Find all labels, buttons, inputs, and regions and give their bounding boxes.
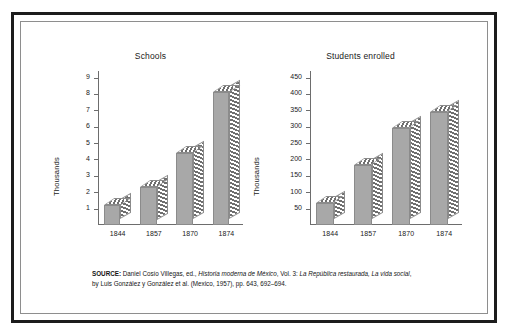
- chart-students-enrolled-bar-1857: [354, 165, 371, 225]
- chart-students-enrolled-plot-area: 5010015020025030035040045018441857187018…: [310, 71, 462, 225]
- chart-schools-y-tick-label: 2: [86, 188, 90, 195]
- chart-schools-y-axis-label: Thousands: [52, 157, 61, 196]
- chart-students-enrolled-y-tick: 200: [306, 159, 311, 160]
- chart-schools-bar-1874: [213, 92, 230, 225]
- chart-schools-x-tick-label: 1870: [176, 230, 204, 237]
- chart-students-enrolled-bar-group: 1870: [392, 128, 409, 225]
- chart-students-enrolled-y-tick: 250: [306, 143, 311, 144]
- chart-students-enrolled-y-tick: 450: [306, 78, 311, 79]
- bar-side-face: [120, 192, 131, 219]
- source-note: SOURCE: Daniel Cosío Villegas, ed., Hist…: [92, 269, 460, 289]
- chart-schools-y-tick-label: 7: [86, 106, 90, 113]
- chart-students-enrolled-y-tick: 350: [306, 110, 311, 111]
- chart-schools-bar-1870: [176, 153, 193, 225]
- chart-students-enrolled-bar-group: 1857: [354, 165, 371, 225]
- chart-students-enrolled-bar-1870: [392, 128, 409, 225]
- chart-schools-plot-area: 1234567891844185718701874: [98, 71, 243, 225]
- source-note-text-a: Daniel Cosío Villegas, ed.,: [121, 270, 198, 277]
- bar-front-face: [430, 112, 447, 225]
- chart-students-enrolled-y-tick-label: 300: [290, 122, 302, 129]
- chart-schools-x-tick-label: 1857: [140, 230, 168, 237]
- source-note-subtitle-italic: La República restaurada, La vida social: [299, 270, 409, 277]
- chart-students-enrolled-y-tick: 400: [306, 94, 311, 95]
- charts-row: Schools Thousands 1234567891844185718701…: [14, 51, 494, 251]
- chart-students-enrolled-y-tick-label: 100: [290, 188, 302, 195]
- chart-students-enrolled-y-tick-label: 250: [290, 139, 302, 146]
- chart-schools-bar-1844: [104, 205, 121, 225]
- bar-side-face: [193, 141, 204, 219]
- source-note-text-c: ,: [410, 270, 412, 277]
- figure-body: Schools Thousands 1234567891844185718701…: [14, 15, 494, 320]
- chart-schools-y-tick-label: 1: [86, 204, 90, 211]
- bar-side-face: [229, 80, 240, 219]
- chart-students-enrolled-y-tick-label: 50: [294, 204, 302, 211]
- bar-side-face: [410, 116, 421, 219]
- bar-front-face: [316, 203, 333, 225]
- chart-schools-x-tick-label: 1844: [104, 230, 132, 237]
- chart-schools-y-tick: 1: [94, 209, 99, 210]
- chart-schools-y-tick-label: 9: [86, 73, 90, 80]
- chart-students-enrolled-title: Students enrolled: [248, 51, 473, 61]
- source-note-line2: by Luis González y González et al. (Mexi…: [92, 280, 287, 287]
- chart-students-enrolled-y-tick-label: 450: [290, 73, 302, 80]
- bar-front-face: [104, 205, 121, 225]
- chart-schools-y-tick: 4: [94, 159, 99, 160]
- chart-students-enrolled-y-tick: 150: [306, 176, 311, 177]
- bar-front-face: [354, 165, 371, 225]
- chart-schools-y-tick: 3: [94, 176, 99, 177]
- bar-side-face: [334, 191, 345, 219]
- chart-students-enrolled-y-tick-label: 150: [290, 171, 302, 178]
- chart-students-enrolled-y-tick-label: 200: [290, 155, 302, 162]
- chart-schools-y-tick-label: 3: [86, 171, 90, 178]
- chart-schools: Schools Thousands 1234567891844185718701…: [48, 51, 253, 251]
- chart-students-enrolled-y-tick-label: 350: [290, 106, 302, 113]
- bar-side-face: [448, 100, 459, 219]
- chart-students-enrolled-bar-1874: [430, 112, 447, 225]
- chart-students-enrolled-x-tick-label: 1844: [316, 230, 344, 237]
- chart-schools-bar-group: 1874: [213, 92, 230, 225]
- chart-students-enrolled-y-tick-label: 400: [290, 89, 302, 96]
- chart-students-enrolled-bar-group: 1844: [316, 203, 333, 225]
- chart-schools-x-tick-label: 1874: [213, 230, 241, 237]
- chart-students-enrolled-y-tick: 100: [306, 192, 311, 193]
- chart-schools-y-tick: 2: [94, 192, 99, 193]
- chart-students-enrolled-y-tick: 50: [306, 209, 311, 210]
- chart-schools-y-tick-label: 5: [86, 139, 90, 146]
- bar-front-face: [392, 128, 409, 225]
- chart-schools-bar-group: 1870: [176, 153, 193, 225]
- bar-front-face: [140, 187, 157, 226]
- chart-students-enrolled-x-tick-label: 1857: [354, 230, 382, 237]
- chart-schools-y-tick: 8: [94, 94, 99, 95]
- bar-front-face: [213, 92, 230, 225]
- chart-students-enrolled-bar-1844: [316, 203, 333, 225]
- chart-schools-bar-group: 1857: [140, 187, 157, 226]
- chart-schools-title: Schools: [48, 51, 253, 61]
- chart-schools-y-tick-label: 8: [86, 89, 90, 96]
- figure-outer-border: Schools Thousands 1234567891844185718701…: [11, 12, 497, 323]
- chart-students-enrolled-y-tick: 300: [306, 127, 311, 128]
- chart-schools-y-tick: 7: [94, 110, 99, 111]
- chart-students-enrolled: Students enrolled Thousands 501001502002…: [248, 51, 473, 251]
- chart-students-enrolled-x-tick-label: 1874: [430, 230, 458, 237]
- chart-schools-y-tick-label: 4: [86, 155, 90, 162]
- chart-schools-bar-1857: [140, 187, 157, 226]
- source-note-title-italic: Historia moderna de México: [198, 270, 276, 277]
- chart-schools-y-tick-label: 6: [86, 122, 90, 129]
- source-note-label: SOURCE:: [92, 270, 121, 277]
- figure-page: Schools Thousands 1234567891844185718701…: [0, 0, 508, 335]
- bar-front-face: [176, 153, 193, 225]
- chart-students-enrolled-x-tick-label: 1870: [392, 230, 420, 237]
- source-note-text-b: , Vol. 3:: [277, 270, 300, 277]
- chart-schools-bar-group: 1844: [104, 205, 121, 225]
- chart-schools-y-tick: 5: [94, 143, 99, 144]
- chart-schools-y-tick: 9: [94, 78, 99, 79]
- chart-schools-y-tick: 6: [94, 127, 99, 128]
- chart-students-enrolled-bar-group: 1874: [430, 112, 447, 225]
- chart-students-enrolled-y-axis-label: Thousands: [252, 157, 261, 196]
